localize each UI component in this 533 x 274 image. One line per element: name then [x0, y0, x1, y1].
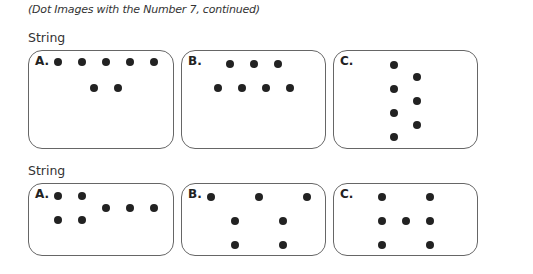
box-label: A. — [35, 187, 49, 201]
dot — [390, 109, 398, 117]
box-label: C. — [340, 54, 353, 68]
dot — [250, 60, 258, 68]
dot — [150, 204, 158, 212]
box-label: B. — [188, 54, 202, 68]
dot — [279, 241, 287, 249]
dot — [78, 216, 86, 224]
box-label: C. — [340, 187, 353, 201]
dot — [90, 84, 98, 92]
dot — [54, 216, 62, 224]
dot — [255, 193, 263, 201]
dot — [390, 85, 398, 93]
page-subtitle: (Dot Images with the Number 7, continued… — [28, 3, 260, 16]
dot — [54, 58, 62, 66]
dot — [402, 217, 410, 225]
dot — [226, 60, 234, 68]
dot — [114, 84, 122, 92]
dot — [426, 217, 434, 225]
dot-image-box — [28, 183, 174, 256]
dot — [102, 204, 110, 212]
dot — [378, 193, 386, 201]
dot — [78, 58, 86, 66]
dot — [426, 193, 434, 201]
dot — [378, 217, 386, 225]
dot-image-box — [333, 50, 478, 149]
box-label: A. — [35, 54, 49, 68]
dot — [207, 193, 215, 201]
dot — [390, 133, 398, 141]
dot — [231, 217, 239, 225]
dot — [413, 73, 421, 81]
dot — [413, 97, 421, 105]
section-heading: String — [28, 30, 65, 45]
dot — [78, 192, 86, 200]
dot — [413, 121, 421, 129]
dot — [390, 61, 398, 69]
dot — [303, 193, 311, 201]
dot — [126, 204, 134, 212]
dot — [286, 84, 294, 92]
dot — [426, 241, 434, 249]
dot — [150, 58, 158, 66]
dot — [102, 58, 110, 66]
section-heading: String — [28, 163, 65, 178]
dot — [214, 84, 222, 92]
dot — [378, 241, 386, 249]
box-label: B. — [188, 187, 202, 201]
dot — [279, 217, 287, 225]
dot — [54, 192, 62, 200]
dot — [274, 60, 282, 68]
dot — [238, 84, 246, 92]
dot — [126, 58, 134, 66]
dot — [231, 241, 239, 249]
dot — [262, 84, 270, 92]
